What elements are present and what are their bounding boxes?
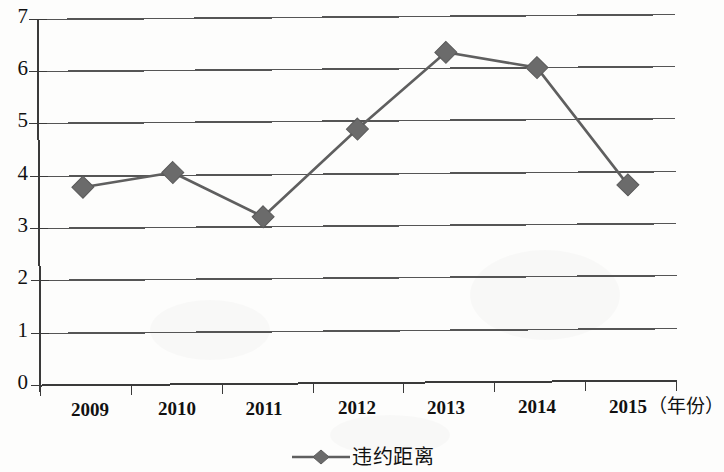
gridlines (38, 15, 677, 334)
y-tick-label-3: 3 (2, 215, 28, 236)
y-tick-label-2: 2 (2, 267, 28, 288)
y-tick-label-4: 4 (2, 163, 28, 184)
data-point-2010 (162, 161, 184, 183)
gridline-2 (40, 276, 677, 281)
x-tick-label-2011: 2011 (224, 399, 304, 419)
x-tick-label-2014: 2014 (497, 397, 577, 417)
data-point-2009 (72, 176, 94, 198)
chart-legend: 违约距离 (0, 442, 724, 472)
x-tick-label-2013: 2013 (406, 398, 486, 418)
legend-marker-diamond-icon (290, 448, 352, 466)
legend-label-violation-distance: 违约距离 (352, 446, 434, 468)
x-tick-label-2010: 2010 (137, 399, 217, 419)
data-point-2014 (526, 57, 548, 79)
data-point-2015 (617, 174, 639, 196)
x-tick-label-2012: 2012 (317, 398, 397, 418)
gridline-6 (38, 67, 675, 72)
y-tick-label-1: 1 (2, 320, 28, 341)
gridline-1 (40, 329, 677, 334)
gridline-7 (38, 15, 675, 20)
x-axis-unit-label: （年份） (648, 397, 724, 417)
y-axis-line (38, 20, 41, 392)
y-tick-label-6: 6 (2, 58, 28, 79)
gridline-3 (39, 224, 676, 229)
line-chart: 7 6 5 4 3 2 1 0 2009 2010 2011 2012 2013… (0, 0, 724, 472)
x-tick-label-2009: 2009 (50, 400, 130, 420)
gridline-4 (39, 172, 676, 177)
y-tick-label-0: 0 (2, 372, 28, 393)
y-tick-label-7: 7 (2, 6, 28, 27)
y-tick-label-5: 5 (2, 110, 28, 131)
x-axis-line (40, 381, 677, 386)
